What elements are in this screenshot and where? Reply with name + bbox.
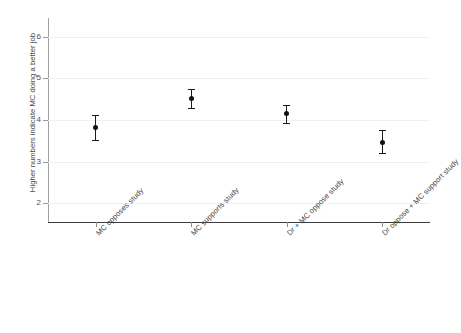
y-tick-label: 4: [27, 115, 41, 124]
error-bar-cap-lower: [92, 140, 99, 141]
y-tick-label: 6: [27, 32, 41, 41]
error-bar-cap-upper: [188, 89, 195, 90]
y-tick-mark: [43, 120, 48, 121]
x-tick-mark: [287, 222, 288, 227]
y-tick-label: 2: [27, 198, 41, 207]
gridline: [48, 203, 430, 204]
y-axis-title: Higher numbers indicate MC doing a bette…: [28, 13, 37, 213]
gridline: [48, 37, 430, 38]
y-tick-label: 3: [27, 157, 41, 166]
error-bar-cap-upper: [92, 115, 99, 116]
error-bar-cap-lower: [379, 153, 386, 154]
error-bar-cap-upper: [379, 130, 386, 131]
y-tick-label: 5: [27, 73, 41, 82]
x-tick-mark: [96, 222, 97, 227]
data-point-marker: [284, 111, 289, 116]
gridline: [48, 78, 430, 79]
y-tick-mark: [43, 37, 48, 38]
data-point-marker: [189, 96, 194, 101]
error-bar-cap-lower: [283, 123, 290, 124]
data-point-marker: [380, 140, 385, 145]
gridline: [48, 120, 430, 121]
data-point-marker: [93, 125, 98, 130]
y-tick-mark: [43, 78, 48, 79]
error-bar-cap-lower: [188, 108, 195, 109]
y-tick-mark: [43, 162, 48, 163]
y-tick-mark: [43, 203, 48, 204]
gridline: [48, 162, 430, 163]
error-bar-cap-upper: [283, 105, 290, 106]
